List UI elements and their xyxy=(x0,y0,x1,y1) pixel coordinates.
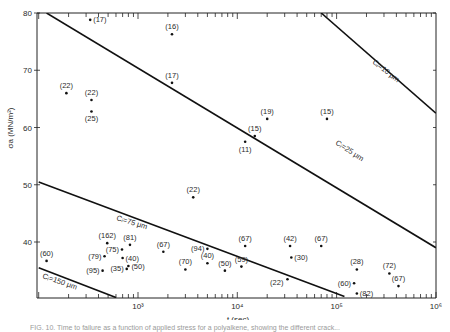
figure-caption: FIG. 10. Time to failure as a function o… xyxy=(30,324,430,332)
data-point-label: (95) xyxy=(86,266,100,275)
y-tick-label: 50 xyxy=(23,181,32,190)
data-point-label: (82) xyxy=(360,289,374,298)
data-point-label: (40) xyxy=(201,251,215,260)
data-point xyxy=(206,262,209,265)
data-point-label: (50) xyxy=(218,259,232,268)
data-point-label: (60) xyxy=(40,249,54,258)
y-tick-label: 60 xyxy=(23,124,32,133)
data-point-label: (15) xyxy=(248,124,262,133)
data-point xyxy=(121,248,124,251)
data-point-label: (22) xyxy=(270,278,284,287)
data-point-label: (67) xyxy=(157,240,171,249)
data-point-label: (75) xyxy=(106,245,120,254)
data-point xyxy=(353,282,356,285)
x-tick-label: 10⁵ xyxy=(330,302,342,311)
x-axis-title: t (sec) xyxy=(227,315,250,320)
data-point-label: (60) xyxy=(338,279,352,288)
ci-line-2 xyxy=(39,182,345,297)
data-point-label: (22) xyxy=(85,88,99,97)
x-tick-label: 10⁶ xyxy=(430,302,442,311)
data-point-label: (70) xyxy=(179,257,193,266)
data-point xyxy=(206,248,209,251)
ci-line-label: Cᵢ=25 μm xyxy=(334,138,366,163)
data-point-label: (67) xyxy=(392,274,406,283)
data-point xyxy=(240,265,243,268)
data-point xyxy=(171,82,174,85)
data-point xyxy=(121,257,124,260)
y-tick-label: 40 xyxy=(23,238,32,247)
data-point xyxy=(125,268,128,271)
data-point xyxy=(289,245,292,248)
data-point xyxy=(286,278,289,281)
data-point xyxy=(356,268,359,271)
ci-line-label: Cᵢ=10 μm xyxy=(371,57,402,84)
data-point xyxy=(101,269,104,272)
data-point-label: (30) xyxy=(294,253,308,262)
data-point xyxy=(224,269,227,272)
data-point xyxy=(90,99,93,102)
data-point-label: (17) xyxy=(93,15,107,24)
axis-labels: 10³10⁴10⁵10⁶8070605040t (sec)σa (MN/m²)C… xyxy=(6,9,442,320)
data-point-label: (59) xyxy=(235,255,249,264)
data-point xyxy=(171,33,174,36)
data-point-label: (72) xyxy=(383,261,397,270)
data-point xyxy=(103,255,106,258)
y-axis-title: σa (MN/m²) xyxy=(6,107,15,148)
data-point xyxy=(89,19,92,22)
data-points: (17)(16)(17)(22)(22)(25)(19)(15)(15)(11)… xyxy=(40,15,406,298)
data-point xyxy=(326,118,329,121)
data-point-label: (42) xyxy=(283,234,297,243)
data-point xyxy=(184,268,187,271)
x-tick-label: 10⁴ xyxy=(231,302,244,311)
data-point xyxy=(129,244,132,247)
data-point xyxy=(65,92,68,95)
data-point-label: (79) xyxy=(88,252,102,261)
data-point-label: (17) xyxy=(165,71,179,80)
data-point-label: (81) xyxy=(123,233,137,242)
data-point xyxy=(90,110,93,113)
data-point xyxy=(397,285,400,288)
data-point-label: (162) xyxy=(98,231,116,240)
ci-line-label: Cᵢ=150 μm xyxy=(41,271,78,291)
data-point-label: (11) xyxy=(239,145,252,154)
data-point-label: (28) xyxy=(350,257,364,266)
data-point xyxy=(45,260,48,263)
data-point xyxy=(162,250,165,253)
data-point-label: (22) xyxy=(60,81,74,90)
data-point xyxy=(356,292,359,295)
data-point xyxy=(192,196,195,199)
ci-line-1 xyxy=(47,13,436,248)
data-point-label: (16) xyxy=(165,22,179,31)
data-point xyxy=(244,245,247,248)
data-point-label: (19) xyxy=(261,107,275,116)
data-point-label: (22) xyxy=(187,185,201,194)
y-tick-label: 80 xyxy=(23,9,32,18)
data-point-label: (15) xyxy=(320,107,334,116)
data-point xyxy=(244,141,247,144)
data-point xyxy=(388,272,391,275)
data-point-label: (50) xyxy=(131,262,145,271)
data-point xyxy=(320,245,323,248)
y-tick-label: 70 xyxy=(23,66,32,75)
data-point-label: (25) xyxy=(85,114,99,123)
data-point xyxy=(127,265,130,268)
data-point-label: (67) xyxy=(315,234,329,243)
data-point-label: (67) xyxy=(238,234,252,243)
data-point xyxy=(266,118,269,121)
x-tick-label: 10³ xyxy=(132,302,144,311)
data-point-label: (35) xyxy=(110,264,124,273)
stress-rupture-chart: (17)(16)(17)(22)(22)(25)(19)(15)(15)(11)… xyxy=(0,0,450,320)
data-point xyxy=(290,256,293,259)
data-point xyxy=(253,135,256,138)
